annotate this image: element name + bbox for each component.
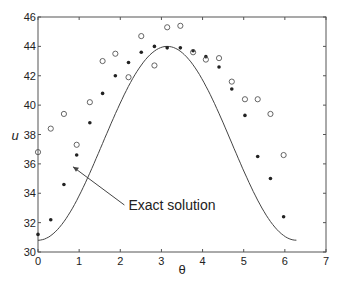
annotation-arrow [73, 167, 124, 205]
circle-marker [281, 152, 286, 157]
circle-marker [255, 97, 260, 102]
star-marker [36, 233, 40, 237]
circle-marker [61, 111, 66, 116]
circle-marker [113, 51, 118, 56]
star-marker [101, 92, 105, 96]
star-marker [243, 114, 247, 118]
star-marker [230, 87, 234, 91]
x-axis-label: θ [178, 262, 185, 277]
y-tick-label: 38 [24, 129, 36, 141]
star-marker [62, 183, 66, 187]
star-marker [217, 65, 221, 69]
star-marker [269, 177, 273, 181]
annotation-label: Exact solution [128, 197, 215, 213]
circle-marker [139, 33, 144, 38]
star-marker [165, 46, 169, 50]
circle-marker [229, 79, 234, 84]
x-tick-label: 4 [200, 255, 206, 267]
axis-ticks: 01234567303234363840424446 [24, 11, 329, 267]
x-tick-label: 6 [282, 255, 288, 267]
circle-marker [87, 100, 92, 105]
y-tick-label: 34 [24, 187, 36, 199]
circle-marker [126, 75, 131, 80]
circle-marker [48, 126, 53, 131]
star-marker [114, 74, 118, 78]
circle-marker [242, 97, 247, 102]
circle-marker [216, 56, 221, 61]
circle-marker [74, 142, 79, 147]
star-marker [256, 155, 260, 159]
circle-markers [35, 23, 286, 157]
circle-marker [100, 58, 105, 63]
star-marker [75, 153, 79, 157]
y-tick-label: 46 [24, 11, 36, 23]
star-marker [139, 50, 143, 54]
x-tick-label: 2 [117, 255, 123, 267]
star-marker [127, 61, 131, 65]
y-tick-label: 32 [24, 217, 36, 229]
x-tick-label: 3 [158, 255, 164, 267]
y-tick-label: 30 [24, 246, 36, 258]
star-marker [282, 215, 286, 219]
y-tick-label: 42 [24, 70, 36, 82]
star-marker [49, 218, 53, 222]
circle-marker [178, 23, 183, 28]
y-tick-label: 36 [24, 158, 36, 170]
circle-marker [268, 111, 273, 116]
star-marker [153, 45, 157, 49]
x-tick-label: 1 [76, 255, 82, 267]
circle-marker [152, 63, 157, 68]
y-tick-label: 40 [24, 99, 36, 111]
star-marker [88, 121, 92, 125]
y-axis-label: u [11, 128, 18, 143]
y-tick-label: 44 [24, 40, 36, 52]
x-tick-label: 5 [241, 255, 247, 267]
x-tick-label: 7 [323, 255, 329, 267]
circle-marker [165, 25, 170, 30]
star-marker [179, 46, 183, 50]
annotation: Exact solution [73, 167, 216, 213]
chart: 01234567303234363840424446 Exact solutio… [0, 0, 344, 285]
